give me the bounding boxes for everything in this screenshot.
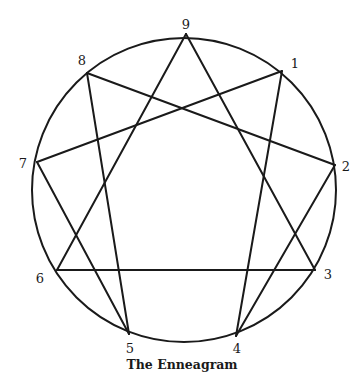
point-label-7: 7 [19, 157, 27, 170]
point-label-5: 5 [126, 342, 134, 355]
outer-circle [32, 38, 336, 342]
hexad-edge-2-8 [87, 73, 335, 165]
point-label-2: 2 [342, 160, 350, 173]
figure-caption: The Enneagram [0, 357, 364, 372]
point-label-1: 1 [291, 57, 299, 70]
enneagram-diagram [0, 0, 364, 379]
hexad-figure [37, 71, 335, 336]
point-label-4: 4 [233, 342, 241, 355]
point-label-8: 8 [78, 54, 86, 67]
point-label-3: 3 [324, 268, 332, 281]
enneagram-figure: 912345678 The Enneagram [0, 0, 364, 379]
point-label-6: 6 [36, 272, 44, 285]
point-label-9: 9 [182, 18, 190, 31]
